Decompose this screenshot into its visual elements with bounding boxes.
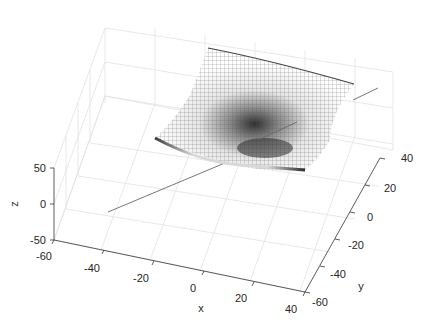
x-tick-label: 20 bbox=[235, 292, 247, 304]
data-line-1 bbox=[108, 160, 232, 212]
y-tick-label: -20 bbox=[348, 239, 364, 251]
z-tick-label: 50 bbox=[34, 162, 46, 174]
surface-mesh bbox=[155, 48, 354, 170]
z-axis-label: z bbox=[8, 201, 20, 207]
y-tick-label: -40 bbox=[330, 268, 346, 280]
y-tick-label: 0 bbox=[367, 211, 373, 223]
data-line-2 bbox=[353, 88, 378, 100]
y-tick-label: 40 bbox=[401, 152, 413, 164]
x-tick-label: -40 bbox=[84, 262, 100, 274]
x-tick-label: -60 bbox=[36, 250, 52, 262]
x-tick-label: -20 bbox=[133, 272, 149, 284]
x-tick-label: 0 bbox=[190, 282, 196, 294]
surface-plot-3d: 50 0 -50 z -60 -40 -20 0 20 40 x -60 -40… bbox=[0, 0, 431, 335]
z-tick-label: -50 bbox=[30, 234, 46, 246]
x-axis-label: x bbox=[198, 302, 204, 314]
y-tick-label: 20 bbox=[384, 182, 396, 194]
z-tick-label: 0 bbox=[40, 198, 46, 210]
y-axis-label: y bbox=[358, 280, 364, 292]
x-tick-label: 40 bbox=[285, 303, 297, 315]
z-tick-labels: 50 0 -50 bbox=[30, 162, 46, 246]
y-tick-label: -60 bbox=[312, 296, 328, 308]
